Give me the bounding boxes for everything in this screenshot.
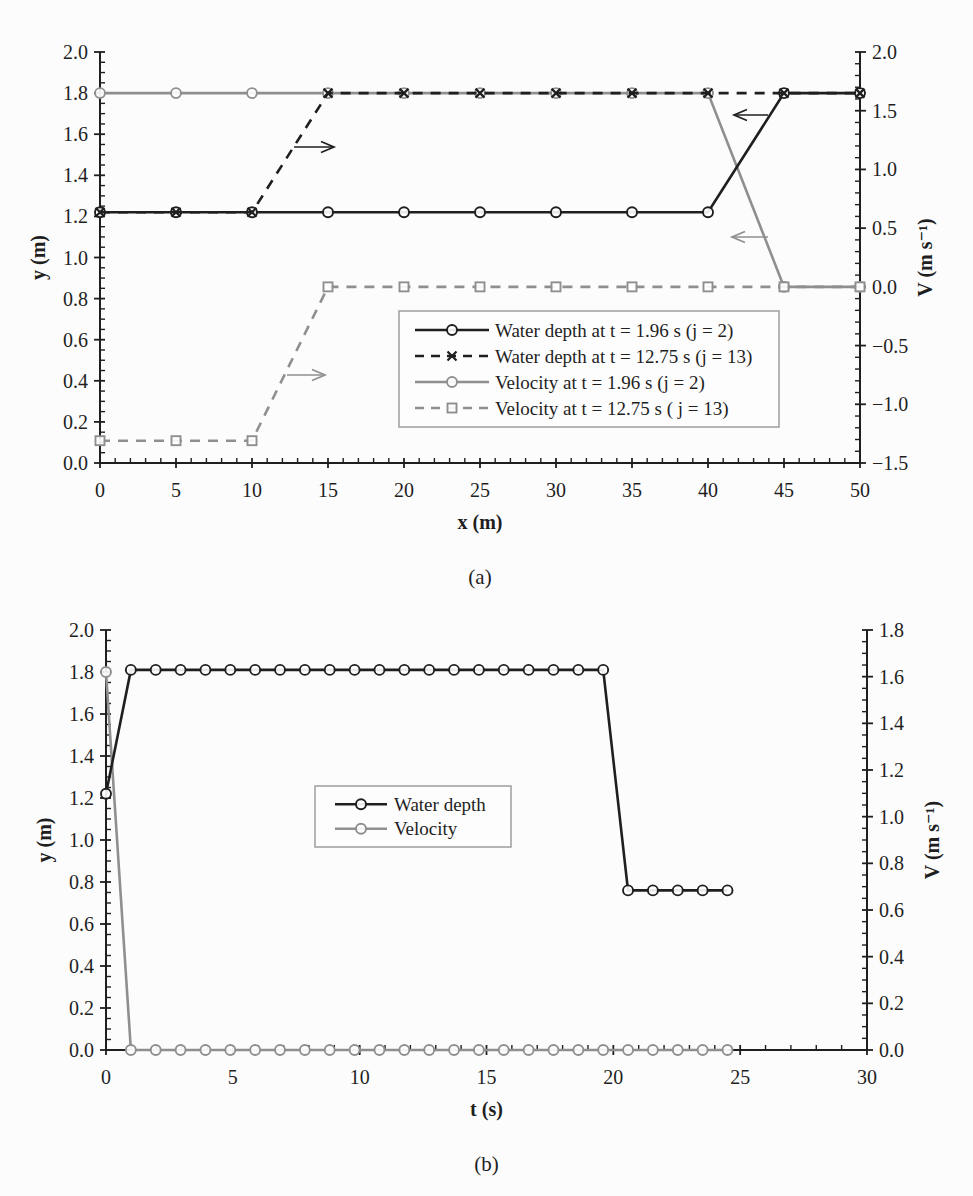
right-tick-label: 1.2 (879, 759, 904, 781)
marker-circle (101, 667, 111, 677)
x-tick-label: 25 (730, 1066, 750, 1088)
marker-square (476, 282, 485, 291)
left-tick-label: 2.0 (63, 41, 88, 63)
marker-square (704, 282, 713, 291)
marker-circle (475, 207, 485, 217)
marker-circle (356, 799, 366, 809)
marker-circle (449, 1045, 459, 1055)
series-b-1 (101, 665, 732, 896)
x-tick-label: 0 (95, 479, 105, 501)
x-axis-title: x (m) (458, 511, 503, 534)
x-tick-label: 30 (546, 479, 566, 501)
marker-circle (374, 665, 384, 675)
left-tick-label: 1.6 (63, 123, 88, 145)
legend-entry-label: Velocity at t = 12.75 s ( j = 13) (495, 398, 729, 420)
marker-circle (356, 824, 366, 834)
marker-circle (399, 665, 409, 675)
left-tick-label: 1.0 (63, 247, 88, 269)
x-axis-ticks: 051015202530 (101, 1045, 877, 1088)
marker-circle (424, 1045, 434, 1055)
right-tick-label: 0.5 (872, 217, 897, 239)
marker-circle (325, 665, 335, 675)
right-tick-label: 2.0 (872, 41, 897, 63)
marker-circle (350, 1045, 360, 1055)
marker-circle (126, 665, 136, 675)
right-tick-label: 0.0 (872, 276, 897, 298)
x-tick-label: 5 (228, 1066, 238, 1088)
right-tick-label: 0.4 (879, 946, 904, 968)
left-tick-label: 1.8 (69, 661, 94, 683)
x-tick-label: 10 (242, 479, 262, 501)
marker-circle (548, 1045, 558, 1055)
left-axis-ticks: 0.00.20.40.60.81.01.21.41.61.82.0 (69, 619, 111, 1061)
right-tick-label: 1.5 (872, 100, 897, 122)
x-axis-ticks: 05101520253035404550 (95, 458, 870, 501)
marker-circle (623, 1045, 633, 1055)
marker-circle (275, 1045, 285, 1055)
marker-circle (151, 665, 161, 675)
marker-circle (548, 665, 558, 675)
marker-square (248, 436, 257, 445)
left-tick-label: 1.2 (63, 205, 88, 227)
annotation-arrow (734, 110, 768, 121)
series-line (106, 672, 728, 1050)
right-tick-label: −1.5 (872, 452, 908, 474)
marker-circle (225, 665, 235, 675)
marker-circle (300, 665, 310, 675)
right-tick-label: 1.6 (879, 666, 904, 688)
figure-page: 051015202530354045500.00.20.40.60.81.01.… (0, 0, 973, 1196)
marker-circle (524, 1045, 534, 1055)
right-tick-label: −1.0 (872, 393, 908, 415)
right-tick-label: −0.5 (872, 335, 908, 357)
left-tick-label: 1.0 (69, 829, 94, 851)
marker-circle (250, 665, 260, 675)
marker-circle (474, 1045, 484, 1055)
marker-circle (673, 1045, 683, 1055)
marker-circle (424, 665, 434, 675)
right-tick-label: 0.6 (879, 899, 904, 921)
marker-square (172, 436, 181, 445)
right-tick-label: 1.4 (879, 712, 904, 734)
marker-circle (722, 1045, 732, 1055)
annotation-arrow (287, 370, 325, 381)
marker-circle (151, 1045, 161, 1055)
left-tick-label: 1.2 (69, 787, 94, 809)
marker-circle (225, 1045, 235, 1055)
marker-circle (623, 885, 633, 895)
left-axis-title: y (m) (27, 235, 50, 280)
left-tick-label: 0.6 (63, 329, 88, 351)
right-tick-label: 1.8 (879, 619, 904, 641)
left-tick-label: 0.6 (69, 913, 94, 935)
marker-circle (176, 1045, 186, 1055)
marker-circle (648, 1045, 658, 1055)
right-tick-label: 1.0 (879, 806, 904, 828)
marker-circle (573, 665, 583, 675)
left-tick-label: 0.4 (69, 955, 94, 977)
left-tick-label: 2.0 (69, 619, 94, 641)
right-axis-title: V (m s⁻¹) (914, 218, 937, 296)
marker-circle (374, 1045, 384, 1055)
marker-circle (447, 325, 457, 335)
marker-square (96, 436, 105, 445)
marker-circle (275, 665, 285, 675)
marker-circle (598, 1045, 608, 1055)
left-axis-ticks: 0.00.20.40.60.81.01.21.41.61.82.0 (63, 41, 105, 474)
x-tick-label: 20 (394, 479, 414, 501)
marker-circle (176, 665, 186, 675)
marker-square (628, 282, 637, 291)
x-tick-label: 25 (470, 479, 490, 501)
left-tick-label: 0.8 (69, 871, 94, 893)
marker-circle (673, 885, 683, 895)
marker-circle (524, 665, 534, 675)
marker-circle (551, 207, 561, 217)
marker-circle (247, 88, 257, 98)
legend-a: Water depth at t = 1.96 s (j = 2)Water d… (399, 311, 779, 427)
marker-circle (350, 665, 360, 675)
left-tick-label: 1.6 (69, 703, 94, 725)
series-a-0 (95, 88, 865, 292)
x-tick-label: 15 (318, 479, 338, 501)
marker-circle (101, 789, 111, 799)
right-axis-ticks: 0.00.20.40.60.81.01.21.41.61.8 (862, 619, 904, 1061)
x-tick-label: 10 (350, 1066, 370, 1088)
legend-entry-label: Water depth at t = 12.75 s (j = 13) (495, 346, 752, 368)
